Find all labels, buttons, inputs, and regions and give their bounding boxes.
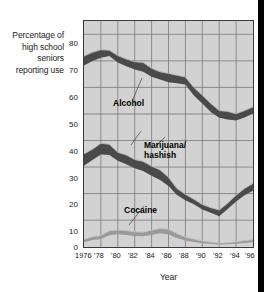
plot-svg: [84, 21, 253, 247]
y-tick-label-20: 20: [62, 201, 78, 209]
x-tick-label-1996: '96: [245, 252, 255, 260]
y-tick-label-50: 50: [62, 121, 78, 129]
series-label-marijuana: Marijuana/ hashish: [144, 140, 186, 160]
series-label-cocaine-line-1: Cocaine: [124, 205, 157, 215]
chart-figure: Percentage of high school seniors report…: [0, 0, 269, 292]
y-tick-label-30: 30: [62, 175, 78, 183]
x-tick-label-1982: '82: [128, 252, 138, 260]
y-tick-label-60: 60: [62, 94, 78, 102]
x-tick-label-1986: '86: [162, 252, 172, 260]
x-tick-label-1992: '92: [213, 252, 223, 260]
y-tick-label-40: 40: [62, 148, 78, 156]
x-tick-label-1978: '78: [94, 252, 104, 260]
y-axis-title-line-1: Percentage of: [2, 30, 64, 42]
marijuana-leader-line-left: [131, 131, 141, 145]
y-tick-label-80: 80: [62, 40, 78, 48]
plot-area: [83, 20, 254, 248]
y-axis-title-line-3: seniors: [2, 53, 64, 65]
x-axis-title: Year: [83, 272, 254, 282]
series-label-alcohol-line-1: Alcohol: [113, 98, 144, 108]
y-tick-label-70: 70: [62, 67, 78, 75]
x-tick-label-1988: '88: [179, 252, 189, 260]
x-tick-label-1980: '80: [111, 252, 121, 260]
x-tick-label-1976: 1976: [75, 252, 92, 260]
series-label-cocaine: Cocaine: [124, 205, 157, 215]
series-label-alcohol: Alcohol: [113, 98, 144, 108]
y-axis-title: Percentage of high school seniors report…: [2, 30, 64, 76]
series-label-marijuana-line-1: Marijuana/: [144, 140, 186, 150]
y-axis-title-line-2: high school: [2, 42, 64, 54]
x-tick-label-1984: '84: [145, 252, 155, 260]
x-tick-label-1990: '90: [196, 252, 206, 260]
y-tick-label-10: 10: [62, 228, 78, 236]
y-axis-title-line-4: reporting use: [2, 65, 64, 77]
page-edge-bar: [258, 0, 264, 292]
x-tick-label-1994: '94: [230, 252, 240, 260]
series-label-marijuana-line-2: hashish: [144, 150, 186, 160]
